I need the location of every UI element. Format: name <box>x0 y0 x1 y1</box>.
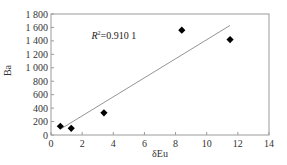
diamond-marker <box>57 123 64 130</box>
y-tick-label: 400 <box>33 103 48 114</box>
x-tick-label: 6 <box>142 138 147 149</box>
diamond-marker <box>226 36 233 43</box>
trendline <box>62 25 230 128</box>
x-tick-label: 8 <box>173 138 178 149</box>
x-tick-label: 10 <box>202 138 212 149</box>
y-tick-label: 1 600 <box>26 22 49 33</box>
y-tick-label: 600 <box>33 89 48 100</box>
y-axis-ticks: 02004006008001 0001 2001 4001 6001 800 <box>26 9 55 141</box>
scatter-chart: 02004006008001 0001 2001 4001 6001 800 0… <box>0 0 287 165</box>
y-tick-label: 200 <box>33 116 48 127</box>
diamond-marker <box>100 109 107 116</box>
x-tick-label: 14 <box>264 138 274 149</box>
plot-frame <box>51 14 269 135</box>
x-axis-label: δEu <box>152 148 168 159</box>
y-tick-label: 0 <box>43 130 48 141</box>
r-squared-annotation: R2=0.910 1 <box>90 30 136 41</box>
y-tick-label: 800 <box>33 76 48 87</box>
diamond-marker <box>68 125 75 132</box>
y-tick-label: 1 000 <box>26 62 49 73</box>
y-tick-label: 1 800 <box>26 9 49 20</box>
data-points <box>57 27 234 132</box>
x-tick-label: 2 <box>80 138 85 149</box>
y-tick-label: 1 200 <box>26 49 49 60</box>
y-tick-label: 1 400 <box>26 35 49 46</box>
x-tick-label: 4 <box>111 138 116 149</box>
y-axis-label: Ba <box>2 64 13 76</box>
r2-value: =0.910 1 <box>101 30 137 41</box>
x-tick-label: 12 <box>233 138 243 149</box>
diamond-marker <box>178 27 185 34</box>
r2-symbol: R <box>90 30 97 41</box>
x-tick-label: 0 <box>49 138 54 149</box>
